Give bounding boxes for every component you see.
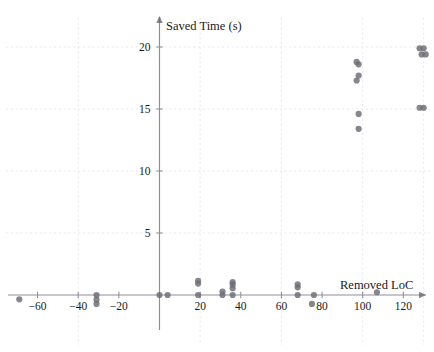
gridlines [6, 18, 430, 345]
data-point [295, 281, 301, 287]
x-tick-label: 60 [276, 300, 288, 312]
data-point [195, 292, 201, 298]
data-point [230, 279, 236, 285]
data-point [356, 126, 362, 132]
data-point [16, 296, 22, 302]
x-axis-label: Removed LoC [340, 278, 413, 292]
x-tick-label: −60 [29, 300, 47, 312]
data-point [356, 61, 362, 67]
scatter-chart: −60−40−20204060801001205101520 Removed L… [0, 0, 434, 352]
data-point [309, 301, 315, 307]
x-tick-label: 100 [354, 300, 372, 312]
data-point [421, 45, 427, 51]
data-point [356, 72, 362, 78]
data-point [156, 292, 162, 298]
data-point [195, 278, 201, 284]
data-point [219, 288, 225, 294]
data-point [165, 292, 171, 298]
x-tick-label: 120 [395, 300, 413, 312]
x-tick-label: 80 [316, 300, 328, 312]
data-point [423, 51, 429, 57]
data-point [295, 292, 301, 298]
x-tick-label: −40 [69, 300, 87, 312]
y-tick-label: 20 [139, 41, 151, 53]
y-tick-label: 15 [139, 103, 151, 115]
x-tick-label: −20 [110, 300, 128, 312]
data-point [93, 301, 99, 307]
chart-canvas: −60−40−20204060801001205101520 Removed L… [0, 0, 434, 352]
data-point [311, 292, 317, 298]
data-point [421, 105, 427, 111]
axis-ticks [38, 47, 404, 298]
x-tick-label: 40 [235, 300, 247, 312]
y-tick-label: 5 [145, 227, 151, 239]
y-tick-label: 10 [139, 165, 151, 177]
x-tick-label: 20 [194, 300, 206, 312]
y-axis-label: Saved Time (s) [166, 19, 242, 33]
data-point [356, 111, 362, 117]
data-point [230, 292, 236, 298]
